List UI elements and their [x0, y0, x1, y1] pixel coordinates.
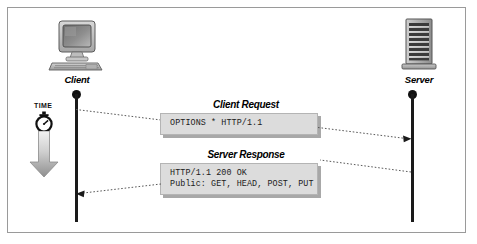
server-response-code-line-2: Public: GET, HEAD, POST, PUT — [161, 179, 317, 190]
server-label: Server — [389, 74, 449, 85]
server-response-box: HTTP/1.1 200 OK Public: GET, HEAD, POST,… — [160, 163, 318, 195]
time-axis-label: TIME — [34, 102, 52, 109]
server-response-label: Server Response — [178, 149, 314, 160]
client-request-arrow-right — [318, 126, 414, 144]
server-response-code-line-1: HTTP/1.1 200 OK — [161, 164, 317, 179]
client-request-box: OPTIONS * HTTP/1.1 — [160, 113, 318, 135]
down-arrow-icon — [28, 131, 60, 179]
client-request-label: Client Request — [178, 99, 314, 110]
server-response-arrow-right — [318, 158, 412, 174]
figure-root: Client — [0, 0, 477, 244]
client-request-arrow-left — [76, 108, 162, 122]
client-label: Client — [47, 74, 107, 85]
client-icon — [48, 20, 106, 72]
server-response-arrow-left — [76, 182, 162, 198]
server-icon — [400, 18, 438, 72]
stopwatch-icon — [33, 111, 55, 133]
client-request-code: OPTIONS * HTTP/1.1 — [161, 114, 317, 129]
